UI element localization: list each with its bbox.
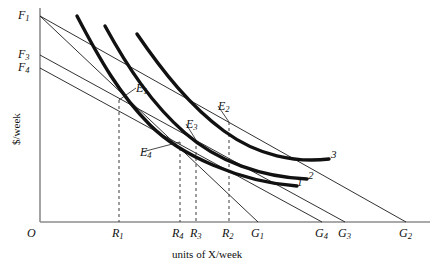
indifference-curve-3 bbox=[137, 34, 329, 160]
curve-label-3: 3 bbox=[331, 148, 337, 160]
chart-svg bbox=[0, 0, 439, 267]
indifference-curves-group bbox=[77, 16, 329, 186]
axis-label-F1: F1 bbox=[18, 8, 30, 23]
curve-label-2: 2 bbox=[308, 169, 314, 181]
axis-label-R3: R3 bbox=[190, 226, 202, 241]
equilibrium-label-E3: E3 bbox=[186, 117, 198, 132]
axes-group bbox=[40, 8, 430, 222]
equilibrium-label-E4: E4 bbox=[140, 145, 152, 160]
axis-label-F4: F4 bbox=[18, 60, 30, 75]
equilibrium-label-E1: E1 bbox=[136, 81, 148, 96]
axis-label-R2: R2 bbox=[222, 226, 234, 241]
axis-label-R4: R4 bbox=[172, 226, 184, 241]
axis-label-R1: R1 bbox=[112, 226, 124, 241]
quantity-droplines-group bbox=[119, 100, 229, 222]
x-axis-title: units of X/week bbox=[172, 248, 242, 260]
curve-label-1: 1 bbox=[297, 176, 303, 188]
indifference-curve-1 bbox=[77, 16, 297, 186]
budget-line-F1-G1 bbox=[40, 16, 258, 222]
axis-label-G3: G3 bbox=[338, 226, 351, 241]
axis-label-G2: G2 bbox=[399, 226, 412, 241]
equilibrium-label-E2: E2 bbox=[218, 99, 230, 114]
chart-container: F1 F3 F4 O R1 R4 R3 R2 G1 G4 G3 G2 E1 E2… bbox=[0, 0, 439, 267]
axis-label-origin: O bbox=[27, 226, 36, 241]
axis-label-G1: G1 bbox=[251, 226, 264, 241]
axis-label-G4: G4 bbox=[315, 226, 328, 241]
y-axis-title: $/week bbox=[10, 113, 22, 145]
